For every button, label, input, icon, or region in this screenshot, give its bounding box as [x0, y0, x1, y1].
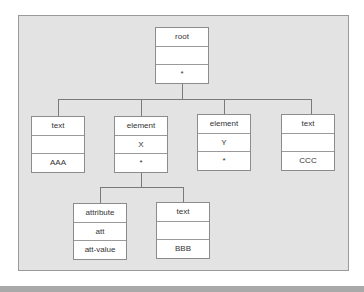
connector-root-down: [182, 84, 183, 99]
connector-level1-bus: [58, 99, 312, 100]
node-name: Y: [198, 134, 250, 153]
node-value: *: [156, 65, 208, 83]
connector-level2-bus: [100, 187, 184, 188]
connector-to-text-aaa: [58, 99, 59, 116]
connector-to-attribute: [100, 187, 101, 203]
node-text-aaa: text AAA: [31, 116, 85, 173]
node-type: attribute: [74, 204, 126, 223]
node-type: text: [282, 115, 334, 134]
node-name: [157, 222, 209, 241]
node-text-bbb: text BBB: [156, 202, 210, 259]
connector-to-element-x: [141, 99, 142, 116]
node-value: AAA: [32, 154, 84, 172]
node-value: CCC: [282, 152, 334, 170]
node-type: root: [156, 28, 208, 47]
node-type: element: [198, 115, 250, 134]
node-type: text: [32, 117, 84, 136]
node-type: text: [157, 203, 209, 222]
node-value: *: [115, 154, 167, 172]
bottom-band: [0, 286, 364, 292]
node-attribute-att: attribute att att-value: [73, 203, 127, 260]
node-text-ccc: text CCC: [281, 114, 335, 171]
node-value: att-value: [74, 241, 126, 259]
node-element-y: element Y *: [197, 114, 251, 171]
node-element-x: element X *: [114, 116, 168, 173]
node-name: [282, 134, 334, 153]
node-name: X: [115, 136, 167, 155]
node-name: [32, 136, 84, 155]
connector-to-element-y: [224, 99, 225, 114]
node-type: element: [115, 117, 167, 136]
node-root: root *: [155, 27, 209, 84]
connector-to-text-ccc: [311, 99, 312, 114]
connector-to-text-bbb: [183, 187, 184, 202]
node-name: att: [74, 223, 126, 242]
node-value: BBB: [157, 240, 209, 258]
connector-element-x-down: [141, 172, 142, 187]
node-name: [156, 47, 208, 66]
node-value: *: [198, 152, 250, 170]
